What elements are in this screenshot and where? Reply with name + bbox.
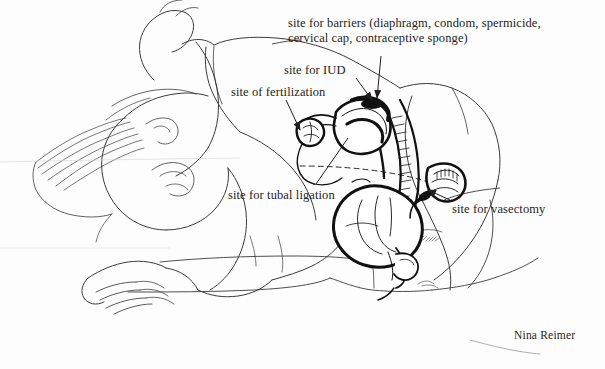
pubic-symphysis [352,179,370,182]
illustration-canvas: site for barriers (diaphragm, condom, sp… [0,0,605,369]
hair-top-edge-2 [106,98,150,120]
upper-arm-over-head [150,10,194,52]
label-site-for-barriers: site for barriers (diaphragm, condom, sp… [288,16,588,46]
hair-top-edge [112,89,196,106]
label-site-for-tubal-ligation: site for tubal ligation [228,188,335,203]
lower-body-bottom-line-2 [330,278,432,292]
hair-lower-mass [33,162,112,217]
torso-contour-mid [272,244,340,280]
upper-hand-detail [176,7,198,16]
upper-embracing-arm [196,42,219,148]
face-mouth-area [152,163,194,196]
hair-strand-1 [36,118,126,162]
male-pelvis-inner-left-lower [422,200,451,290]
label-barriers-line2: cervical cap, contraceptive sponge) [288,31,468,45]
lower-body-top-line [160,256,372,262]
upper-forearm [139,22,154,80]
hand-back [88,261,166,278]
finger-4 [114,304,152,314]
lower-figure-jaw [166,168,229,230]
external-genitalia-curve [378,288,394,300]
lower-figure-hairline [124,93,208,118]
cervix [380,148,384,178]
incidental-mark-2 [422,285,438,288]
lower-body-bottom-line [128,278,330,292]
thigh-crease [278,236,283,272]
faint-horizon-line [0,158,240,162]
hair-tip [96,214,112,242]
artist-signature: Nina Reimer [514,328,575,343]
lower-forearm [198,280,272,297]
lower-elbow [210,262,236,290]
label-site-for-vasectomy: site for vasectomy [452,202,545,217]
hair-strand-3 [42,128,134,174]
finger-2-tip [140,289,168,296]
lower-upper-arm [228,168,247,262]
face-detail-2 [166,184,188,190]
face-ear-inner [154,126,170,132]
anatomical-line-drawing [0,0,605,369]
finger-1-tip [136,281,164,288]
hand-wrist [166,268,198,290]
leader-fertilization [286,100,300,130]
testis-scrotum [426,164,465,202]
leader-barriers [377,56,381,98]
incidental-mark [418,281,434,284]
face-ear [146,118,178,144]
label-barriers-line1: site for barriers (diaphragm, condom, sp… [288,16,541,30]
iud-marker [361,99,383,109]
lower-figure-head-outline [102,118,166,230]
label-site-for-iud: site for IUD [284,63,346,78]
finger-3 [106,298,146,308]
hand-thumb [82,278,104,304]
thigh-crease-2 [250,236,256,266]
hair-strand-5 [56,140,142,186]
finger-3-tip [146,297,174,304]
leader-tubal-ligation [316,138,348,184]
hair-strand-4 [48,134,138,180]
prostate [394,253,418,280]
label-site-of-fertilization: site of fertilization [231,85,325,100]
